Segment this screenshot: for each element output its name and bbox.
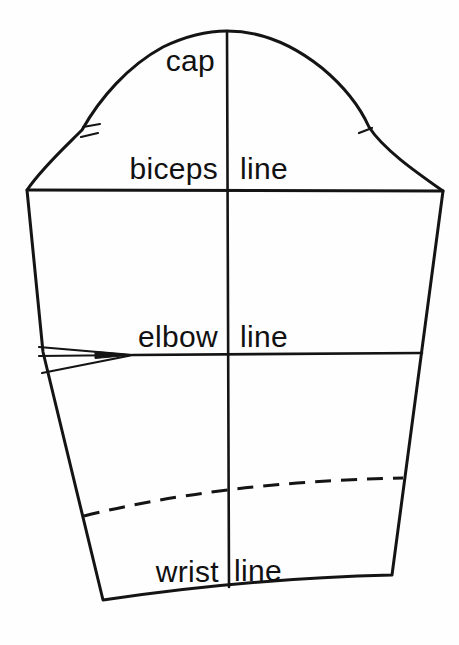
wrist-line-label: line [234,554,282,587]
center-grainline [227,31,229,587]
biceps-line [27,190,443,191]
cap-label: cap [166,44,215,77]
sleeve-pattern-diagram: cap biceps line elbow line wrist line [0,0,459,645]
wrist-label: wrist [155,555,220,588]
biceps-label: biceps [129,152,218,185]
elbow-label: elbow [138,320,218,353]
elbow-dart [39,347,133,373]
elbow-line-label: line [240,320,288,353]
back-notch-double [81,124,100,137]
dart-lower-leg [42,355,133,373]
biceps-line-label: line [240,152,288,185]
elbow-line [133,353,422,355]
hem-adjustment-dashed-line [84,478,403,516]
scanned-page: cap biceps line elbow line wrist line [0,0,459,645]
notch-tick [81,133,98,137]
